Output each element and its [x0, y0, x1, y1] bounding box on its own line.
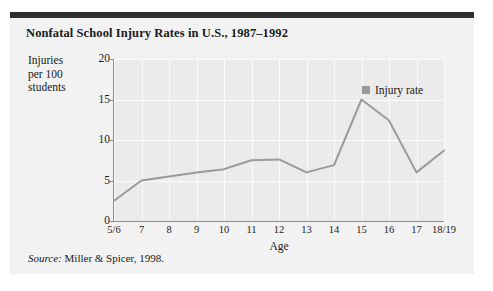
series-line-injury-rate — [10, 12, 474, 274]
plot-wrapper: 05101520 5/6789101112131415161718/19 Inj… — [10, 12, 474, 274]
legend-swatch-icon — [362, 86, 370, 94]
series-polyline — [114, 100, 444, 201]
source-note: Source: Miller & Spicer, 1998. — [28, 252, 164, 264]
x-axis-title: Age — [114, 240, 444, 252]
legend-label: Injury rate — [375, 84, 423, 96]
source-citation: Miller & Spicer, 1998. — [62, 252, 164, 264]
source-prefix: Source: — [28, 252, 62, 264]
figure-panel: Nonfatal School Injury Rates in U.S., 19… — [10, 12, 474, 274]
legend: Injury rate — [362, 84, 423, 96]
